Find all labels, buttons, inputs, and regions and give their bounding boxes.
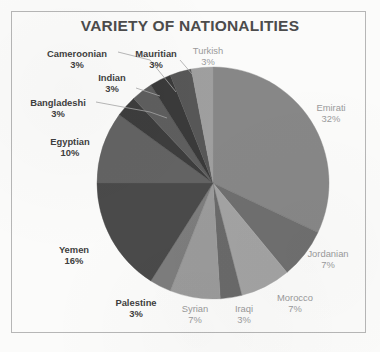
slice-label-bangladeshi: Bangladeshi 3% bbox=[20, 97, 96, 120]
slice-label-jordanian: Jordanian 7% bbox=[297, 248, 359, 271]
slice-label-bangladeshi-name: Bangladeshi bbox=[20, 97, 96, 108]
slice-label-mauritian-value: 3% bbox=[125, 59, 187, 70]
slice-label-emirati: Emirati 32% bbox=[305, 102, 357, 125]
slice-label-yemen: Yemen 16% bbox=[47, 244, 101, 267]
slice-label-syrian-name: Syrian bbox=[172, 303, 218, 314]
slice-label-morocco-value: 7% bbox=[267, 303, 323, 314]
slice-label-indian-value: 3% bbox=[86, 83, 138, 94]
slice-label-palestine: Palestine 3% bbox=[106, 297, 166, 320]
slice-label-egyptian: Egyptian 10% bbox=[40, 136, 100, 159]
slice-label-morocco: Morocco 7% bbox=[267, 292, 323, 315]
slice-label-iraqi: Iraqi 3% bbox=[225, 303, 263, 326]
slice-label-iraqi-value: 3% bbox=[225, 314, 263, 325]
slice-label-palestine-value: 3% bbox=[106, 308, 166, 319]
slice-label-egyptian-value: 10% bbox=[40, 147, 100, 158]
slice-label-syrian: Syrian 7% bbox=[172, 303, 218, 326]
slice-label-emirati-value: 32% bbox=[305, 113, 357, 124]
chart-page: VARIETY OF NATIONALITIES Cameroonian 3% … bbox=[0, 0, 380, 352]
chart-title: VARIETY OF NATIONALITIES bbox=[0, 17, 380, 35]
slice-label-palestine-name: Palestine bbox=[106, 297, 166, 308]
slice-label-emirati-name: Emirati bbox=[305, 102, 357, 113]
slice-label-mauritian: Mauritian 3% bbox=[125, 48, 187, 71]
slice-label-mauritian-name: Mauritian bbox=[125, 48, 187, 59]
slice-label-bangladeshi-value: 3% bbox=[20, 108, 96, 119]
slice-label-egyptian-name: Egyptian bbox=[40, 136, 100, 147]
slice-label-indian-name: Indian bbox=[86, 72, 138, 83]
slice-label-cameroonian-value: 3% bbox=[35, 59, 119, 70]
slice-label-jordanian-name: Jordanian bbox=[297, 248, 359, 259]
slice-label-turkish: Turkish 3% bbox=[183, 45, 233, 68]
slice-label-yemen-value: 16% bbox=[47, 255, 101, 266]
pie-slice-group bbox=[97, 67, 329, 299]
slice-label-iraqi-name: Iraqi bbox=[225, 303, 263, 314]
slice-label-turkish-value: 3% bbox=[183, 56, 233, 67]
slice-label-morocco-name: Morocco bbox=[267, 292, 323, 303]
slice-label-cameroonian: Cameroonian 3% bbox=[35, 48, 119, 71]
slice-label-cameroonian-name: Cameroonian bbox=[35, 48, 119, 59]
slice-label-yemen-name: Yemen bbox=[47, 244, 101, 255]
slice-label-syrian-value: 7% bbox=[172, 314, 218, 325]
slice-label-indian: Indian 3% bbox=[86, 72, 138, 95]
slice-label-jordanian-value: 7% bbox=[297, 259, 359, 270]
slice-label-turkish-name: Turkish bbox=[183, 45, 233, 56]
